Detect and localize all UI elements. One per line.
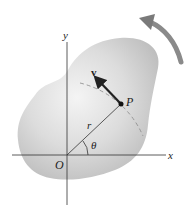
x-axis-label: x xyxy=(168,150,173,161)
point-p-dot xyxy=(119,102,124,107)
rigid-body-rotation-diagram: y x O P r θ v xyxy=(0,0,195,213)
radius-label: r xyxy=(87,120,91,131)
origin-label: O xyxy=(55,159,64,171)
angle-label: θ xyxy=(91,140,96,151)
diagram-graphics xyxy=(0,0,195,213)
velocity-label: v xyxy=(91,67,97,78)
rigid-body-shape xyxy=(18,38,159,180)
point-label: P xyxy=(126,96,133,108)
y-axis-label: y xyxy=(63,30,68,41)
